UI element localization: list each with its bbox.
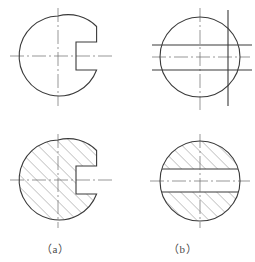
view-bottom-right [150,134,250,228]
centerlines-top-right [152,8,250,112]
view-bottom-left [10,134,112,228]
projection-lines-top-right [152,10,252,106]
hatch-fill-region [155,136,247,228]
view-top-left [10,8,112,106]
drawing-canvas [0,0,255,262]
caption-a: （a） [41,240,69,256]
section-hatching [155,136,247,228]
view-top-right [152,8,252,112]
centerlines-top-left [10,8,112,106]
technical-drawing-figure: （a） （b） [0,0,255,262]
caption-b: （b） [168,240,197,256]
